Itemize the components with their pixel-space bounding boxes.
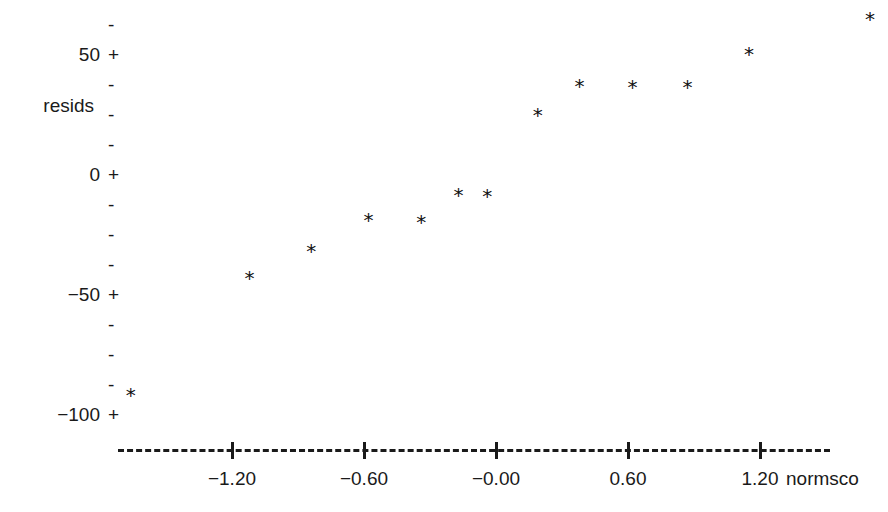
major-tick-glyph: + [100,45,130,65]
x-axis-title: normsco [786,468,859,490]
x-axis-tick-label: −1.20 [208,468,256,490]
data-point: * [414,215,428,229]
minor-tick-glyph: - [100,75,130,95]
minor-tick-glyph: - [100,315,130,335]
x-axis-tick-label: 1.20 [742,468,779,490]
data-point: * [573,79,587,93]
data-point: * [304,244,318,258]
minor-tick-glyph: - [100,135,130,155]
data-point: * [531,108,545,122]
major-tick-glyph: + [100,165,130,185]
major-tick-glyph: + [100,285,130,305]
data-point: * [480,189,494,203]
x-axis-tick-mark [363,442,366,459]
minor-tick-glyph: - [100,225,130,245]
data-point: * [680,80,694,94]
data-point: * [625,80,639,94]
x-axis-tick-mark [231,442,234,459]
y-axis: ----------50+0+−50+−100+ [0,0,130,512]
y-axis-minor-tick: - [0,15,130,35]
minor-tick-glyph: - [100,15,130,35]
minor-tick-glyph: - [100,105,130,125]
scatter-series: ************* [0,0,888,512]
minor-tick-glyph: - [100,375,130,395]
data-point: * [361,213,375,227]
minor-tick-glyph: - [100,255,130,275]
y-axis-tick-0: 0+ [0,165,130,185]
y-axis-minor-tick: - [0,375,130,395]
y-axis-minor-tick: - [0,135,130,155]
data-point: * [243,271,257,285]
y-axis-tick-label: −50 [68,285,100,305]
y-axis-tick-label: 0 [89,165,100,185]
y-axis-minor-tick: - [0,225,130,245]
y-axis-minor-tick: - [0,195,130,215]
y-axis-tick-50: 50+ [0,45,130,65]
y-axis-tick-label: 50 [79,45,100,65]
y-axis-minor-tick: - [0,315,130,335]
major-tick-glyph: + [100,405,130,425]
data-point: * [742,47,756,61]
y-axis-minor-tick: - [0,255,130,275]
y-axis-tick-neg50: −50+ [0,285,130,305]
y-axis-minor-tick: - [0,75,130,95]
data-point: * [452,188,466,202]
normal-probability-plot: ----------50+0+−50+−100+ −1.20−0.60−0.00… [0,0,888,512]
x-axis-tick-mark [759,442,762,459]
y-axis-tick-label: −100 [57,405,100,425]
minor-tick-glyph: - [100,195,130,215]
x-axis-tick-label: −0.60 [340,468,388,490]
x-axis-tick-label: 0.60 [610,468,647,490]
minor-tick-glyph: - [100,345,130,365]
x-axis-tick-mark [627,442,630,459]
y-axis-title: resids [0,96,94,116]
x-axis-tick-label: −0.00 [472,468,520,490]
data-point: * [863,12,877,26]
x-axis-tick-mark [495,442,498,459]
y-axis-tick-neg100: −100+ [0,405,130,425]
x-axis-line [118,449,830,452]
y-axis-minor-tick: - [0,345,130,365]
